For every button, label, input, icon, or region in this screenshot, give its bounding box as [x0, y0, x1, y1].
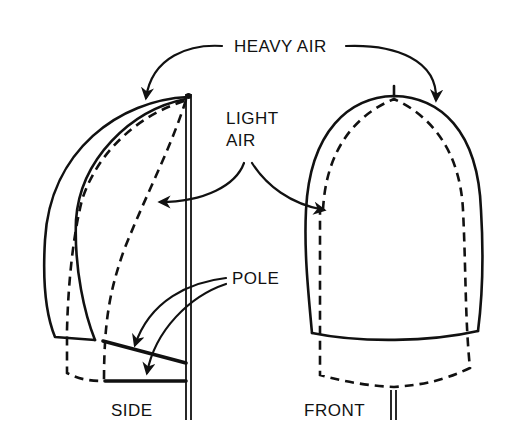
front-view: FRONT [304, 86, 482, 420]
light-air-label-line1: LIGHT [226, 109, 279, 128]
front-sail-outer-heavy [305, 96, 482, 333]
spinnaker-trim-diagram: HEAVY AIR LIGHT AIR POLE SIDE [0, 0, 512, 443]
light-air-arrow-side [160, 163, 244, 202]
heavy-air-arrow-front [346, 46, 436, 100]
front-sail-light [320, 99, 470, 387]
side-sail-outer-heavy [44, 97, 188, 340]
side-pole-heavy [103, 341, 186, 363]
pole-label: POLE [232, 269, 279, 288]
light-air-label-line2: AIR [226, 131, 256, 150]
light-air-arrow-front [252, 163, 324, 210]
heavy-air-arrow-side [146, 46, 222, 98]
side-caption: SIDE [111, 401, 153, 420]
heavy-air-label: HEAVY AIR [234, 37, 327, 56]
front-sail-foot-heavy [312, 331, 478, 340]
front-caption: FRONT [304, 401, 365, 420]
